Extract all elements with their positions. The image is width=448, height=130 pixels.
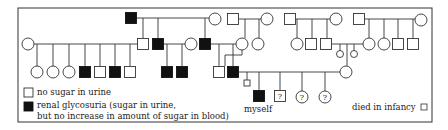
- unaffected-male-symbol: [95, 67, 106, 78]
- affected-male-symbol: [126, 13, 137, 24]
- unaffected-male-symbol: [321, 39, 332, 50]
- legend-affected-label-line2: but no increase in amount of sugar in bl…: [37, 111, 229, 121]
- affected-male-symbol: [200, 39, 211, 50]
- affected-male-symbol: [162, 67, 173, 78]
- unaffected-male-symbol: [306, 39, 317, 50]
- unaffected-male-symbol: [393, 39, 404, 50]
- unaffected-female-symbol: [31, 66, 43, 78]
- affected-male-symbol: [228, 67, 239, 78]
- unaffected-female-symbol: [291, 38, 303, 50]
- legend-unaffected-symbol: [24, 88, 33, 97]
- unaffected-male-symbol: [228, 14, 239, 25]
- legend-unaffected-label: no sugar in urine: [37, 87, 111, 97]
- myself-affected-male-symbol: [254, 91, 265, 102]
- unaffected-female-symbol: [363, 38, 375, 50]
- unaffected-male-symbol: [285, 14, 296, 25]
- unaffected-female-symbol: [252, 38, 264, 50]
- unaffected-male-symbol: [138, 39, 149, 50]
- legend-affected-label-line1: renal glycosuria (sugar in urine,: [37, 100, 176, 110]
- unaffected-female-symbol: [415, 14, 427, 26]
- unaffected-female-symbol: [337, 51, 344, 58]
- legend-affected-symbol: [24, 102, 33, 111]
- unaffected-female-symbol: [261, 13, 273, 25]
- unaffected-female-symbol: [63, 66, 75, 78]
- unaffected-female-symbol: [47, 66, 59, 78]
- affected-male-symbol: [153, 39, 164, 50]
- unaffected-female-symbol: [185, 38, 197, 50]
- died-in-infancy-label: died in infancy: [352, 102, 416, 112]
- affected-male-symbol: [80, 67, 91, 78]
- unaffected-male-symbol: [408, 39, 419, 50]
- unaffected-female-symbol: ?: [296, 91, 308, 103]
- unaffected-male-symbol: [214, 67, 225, 78]
- unaffected-female-symbol: [209, 13, 221, 25]
- unknown-mark: ?: [323, 93, 327, 102]
- unaffected-male-symbol: ?: [275, 91, 286, 102]
- myself-label: myself: [244, 104, 272, 114]
- unaffected-female-symbol: [22, 38, 34, 50]
- affected-male-symbol: [177, 67, 188, 78]
- died-in-infancy-symbol: [421, 104, 427, 110]
- unaffected-female-symbol: ?: [319, 91, 331, 103]
- unaffected-female-symbol: [330, 13, 342, 25]
- unaffected-female-symbol: [236, 38, 248, 50]
- unaffected-female-symbol: [340, 66, 352, 78]
- affected-male-symbol: [110, 67, 121, 78]
- unaffected-male-symbol: [244, 80, 250, 86]
- unaffected-male-symbol: [354, 14, 365, 25]
- unknown-mark: ?: [278, 92, 282, 101]
- unaffected-female-symbol: [351, 51, 358, 58]
- unknown-mark: ?: [300, 93, 304, 102]
- unaffected-male-symbol: [125, 67, 136, 78]
- unaffected-female-symbol: [378, 38, 390, 50]
